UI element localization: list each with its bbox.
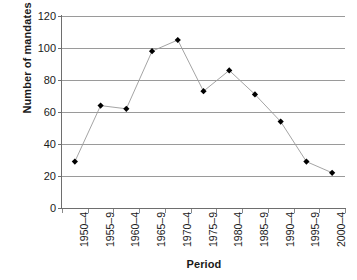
x-axis-line <box>61 208 346 209</box>
y-tick-label: 100 <box>12 43 56 54</box>
y-tick-label: 20 <box>12 171 56 182</box>
y-tick-label: 80 <box>12 75 56 86</box>
series-line <box>75 40 332 173</box>
data-point-marker <box>97 103 103 109</box>
line-chart: Number of mandates 020406080100120 1950–… <box>0 0 357 280</box>
data-point-marker <box>175 37 181 43</box>
y-tick-label: 0 <box>12 203 56 214</box>
x-axis-title: Period <box>62 258 346 270</box>
data-point-marker <box>123 106 129 112</box>
plot-area <box>62 16 345 208</box>
y-tick-label: 120 <box>12 11 56 22</box>
y-tick-label: 60 <box>12 107 56 118</box>
data-series-layer <box>62 16 345 208</box>
x-tick-mark <box>62 209 63 213</box>
data-point-marker <box>72 159 78 165</box>
data-point-marker <box>149 48 155 54</box>
y-tick-label: 40 <box>12 139 56 150</box>
data-point-marker <box>329 170 335 176</box>
data-point-marker <box>303 159 309 165</box>
